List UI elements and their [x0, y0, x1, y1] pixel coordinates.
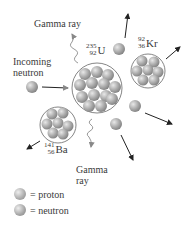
gamma-ray-bottom-wave [87, 119, 93, 147]
krypton-symbol: Kr [146, 37, 158, 49]
released-neutron [113, 43, 125, 55]
incoming-arrow [42, 87, 68, 88]
released-neutron [129, 100, 141, 112]
gamma-ray-top-wave [70, 34, 78, 63]
arrow-ba [27, 141, 40, 149]
gamma-ray-bottom-label-2: ray [76, 175, 89, 186]
legend-neutron-label: = neutron [30, 205, 69, 216]
arrow-up [125, 14, 128, 38]
uranium-symbol: U [98, 44, 106, 56]
neutron-icon [14, 204, 26, 216]
barium-label: 14156 Ba [44, 142, 68, 156]
incoming-neutron-label-1: Incoming [13, 56, 51, 67]
uranium-label: 23592 U [86, 43, 105, 57]
krypton-atomic: 36 [138, 43, 145, 50]
gamma-ray-bottom-label-1: Gamma [76, 164, 108, 175]
arrow-kr [166, 47, 180, 59]
uranium-nucleus [72, 63, 122, 113]
krypton-nucleus [131, 54, 165, 88]
legend-proton-label: = proton [30, 189, 64, 200]
incoming-neutron-label-2: neutron [13, 67, 44, 78]
barium-nucleus [40, 107, 76, 143]
krypton-label: 9236 Kr [138, 36, 158, 50]
arrow-right [145, 113, 172, 124]
barium-atomic: 56 [48, 149, 55, 156]
arrow-down [121, 135, 133, 160]
legend-proton: = proton [14, 188, 64, 200]
uranium-atomic: 92 [90, 50, 97, 57]
proton-icon [14, 188, 26, 200]
legend-neutron: = neutron [14, 204, 69, 216]
incoming-neutron [26, 81, 38, 93]
barium-symbol: Ba [56, 143, 68, 155]
released-neutron [110, 118, 122, 130]
gamma-ray-top-label: Gamma ray [34, 18, 81, 29]
